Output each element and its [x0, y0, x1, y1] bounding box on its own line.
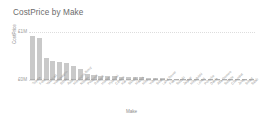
x-label-slot: Renault — [91, 82, 98, 106]
x-label-slot: Mitsubishi — [186, 82, 193, 106]
x-label-slot: BMW — [56, 82, 63, 106]
x-label-slot: Land Rover — [159, 82, 166, 106]
bar-slot[interactable] — [125, 32, 132, 81]
x-label-slot: Jaguar — [180, 82, 187, 106]
x-label-slot: Fiat — [166, 82, 173, 106]
x-label-slot: Citroen — [111, 82, 118, 106]
x-label-slot: Nissan — [77, 82, 84, 106]
bar[interactable] — [30, 36, 35, 81]
y-axis-title: CostPrice — [12, 24, 17, 44]
x-label-slot: Mini — [139, 82, 146, 106]
x-label-slot: Lexus — [193, 82, 200, 106]
x-label-slot: Mazda — [132, 82, 139, 106]
x-label-slot: Audi — [63, 82, 70, 106]
bar-slot[interactable] — [97, 32, 104, 81]
x-label-slot: Hyundai — [104, 82, 111, 106]
x-label-slot: Seat — [152, 82, 159, 106]
bar-slot[interactable] — [186, 32, 193, 81]
x-axis-labels: ToyotaFordVauxhallVolkswagenBMWAudiMerce… — [29, 82, 255, 106]
bar-slot[interactable] — [104, 32, 111, 81]
x-label-slot: Porsche — [200, 82, 207, 106]
x-label-slot: Kia — [118, 82, 125, 106]
y-axis-ticks: £1M £0M — [0, 0, 27, 123]
x-label-slot: Honda — [97, 82, 104, 106]
bar-slot[interactable] — [159, 32, 166, 81]
x-label-slot: Vauxhall — [43, 82, 50, 106]
x-label-slot: Dacia — [207, 82, 214, 106]
bar-slot[interactable] — [145, 32, 152, 81]
y-axis-tick-top: £1M — [18, 29, 27, 34]
x-axis-title: Make — [0, 109, 263, 114]
bar-slot[interactable] — [214, 32, 221, 81]
bar-slot[interactable] — [132, 32, 139, 81]
x-label-slot: Subaru — [221, 82, 228, 106]
x-label-slot: Mercedes-Benz — [70, 82, 77, 106]
x-label-slot: Alfa Romeo — [214, 82, 221, 106]
x-label-slot: Suzuki — [173, 82, 180, 106]
x-label-slot: Ford — [36, 82, 43, 106]
bar-slot[interactable] — [152, 32, 159, 81]
bar-slot[interactable] — [139, 32, 146, 81]
bar-slot[interactable] — [36, 32, 43, 81]
chart-card: CostPrice by Make £1M £0M CostPrice Toyo… — [0, 0, 263, 123]
x-label-slot: Toyota — [29, 82, 36, 106]
bar[interactable] — [44, 58, 49, 81]
x-label-slot: Peugeot — [84, 82, 91, 106]
bar[interactable] — [37, 38, 42, 81]
x-label-slot: Volvo — [145, 82, 152, 106]
x-label-slot: Volkswagen — [50, 82, 57, 106]
x-label-slot: Smart — [241, 82, 248, 106]
x-label-slot: Jeep — [234, 82, 241, 106]
bar-slot[interactable] — [70, 32, 77, 81]
bar-slot[interactable] — [248, 32, 255, 81]
y-axis-tick-bottom: £0M — [18, 77, 27, 82]
x-label-slot: Saab — [248, 82, 255, 106]
bar-slot[interactable] — [43, 32, 50, 81]
bar-slot[interactable] — [180, 32, 187, 81]
bar-slot[interactable] — [118, 32, 125, 81]
x-label-slot: Skoda — [125, 82, 132, 106]
bar-slot[interactable] — [29, 32, 36, 81]
x-label-slot: Chevrolet — [227, 82, 234, 106]
